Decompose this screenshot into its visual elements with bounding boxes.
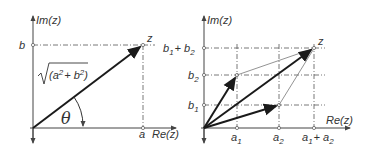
vector-z [33,47,140,128]
right-panel: Im(z) Re(z) z b1 b2 b1+ b2 a1 a2 a1+ a2 [163,14,353,146]
right-z-label: z [317,35,324,47]
left-re-label: Re(z) [152,128,179,140]
a2-label: a2 [273,131,284,146]
left-z-label: z [146,32,153,44]
b-label: b [19,39,25,51]
a1-plus-a2-label: a1+ a2 [302,131,334,146]
svg-text:(a2+ b2): (a2+ b2) [49,68,88,81]
b2-label: b2 [188,69,199,84]
vector-z-sum [204,50,311,128]
b1-plus-b2-label: b1+ b2 [163,42,195,57]
left-panel: Im(z) Re(z) z b a θ (a2+ b2) [19,14,179,143]
magnitude-label: (a2+ b2) [38,63,88,84]
left-im-label: Im(z) [36,14,61,26]
theta-label: θ [61,109,71,128]
right-re-label: Re(z) [326,114,353,126]
parallelogram-top [237,49,312,75]
a-label: a [139,128,145,140]
complex-plane-diagrams: Im(z) Re(z) z b a θ (a2+ b2) [0,0,366,155]
right-im-label: Im(z) [207,14,232,26]
b1-label: b1 [188,99,199,114]
a1-label: a1 [231,131,242,146]
angle-arc [74,97,83,126]
